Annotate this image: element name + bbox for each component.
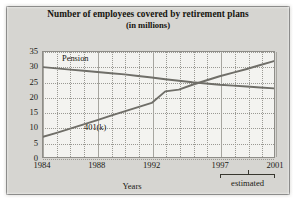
bracket-tick-middle [248, 170, 249, 175]
x-tick-label: 1992 [143, 160, 160, 170]
x-tick-label: 1984 [33, 160, 50, 170]
x-tick-label: 1988 [88, 160, 105, 170]
chart-title: Number of employees covered by retiremen… [8, 9, 288, 30]
y-tick-label: 15 [4, 107, 38, 117]
chart-title-units: (in millions) [8, 20, 288, 30]
estimated-bracket [212, 170, 283, 177]
series-label-401k: 401(k) [84, 123, 106, 132]
y-tick-label: 30 [4, 61, 38, 71]
y-tick-label: 10 [4, 122, 38, 132]
bracket-tick-right [274, 174, 275, 178]
x-tick-label: 1997 [212, 160, 229, 170]
figure-panel: Number of employees covered by retiremen… [0, 0, 296, 201]
estimated-label-text: estimated [212, 178, 283, 188]
x-axis-title-text: Years [122, 181, 141, 191]
chart-title-main: Number of employees covered by retiremen… [8, 9, 288, 20]
series-label-pension: Pension [62, 54, 89, 63]
y-axis-tick-labels: 05101520253035 [4, 51, 38, 158]
y-tick-label: 25 [4, 77, 38, 87]
gridline-vertical [276, 52, 277, 157]
plot-area [42, 51, 275, 158]
y-tick-label: 5 [4, 138, 38, 148]
y-tick-label: 35 [4, 46, 38, 56]
series-line-401-k [43, 61, 274, 137]
data-curves [43, 52, 274, 158]
bracket-tick-left [220, 174, 221, 178]
y-tick-label: 20 [4, 92, 38, 102]
estimated-range-annotation: estimated [212, 170, 283, 188]
x-tick-label: 2001 [266, 160, 283, 170]
